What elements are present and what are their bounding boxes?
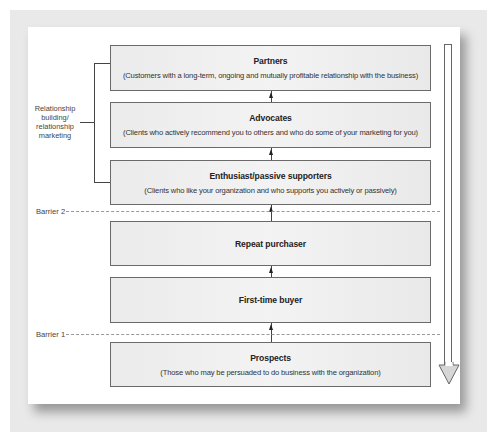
stage-title: Advocates (249, 113, 292, 123)
barrier-1-label: Barrier 1 (36, 330, 65, 339)
bracket-bottom-tick (94, 182, 110, 183)
stage-prospects: Prospects (Those who may be persuaded to… (110, 342, 431, 387)
stage-advocates: Advocates (Clients who actively recommen… (110, 102, 431, 148)
bracket-label-tick (80, 122, 94, 123)
up-arrow-icon (269, 149, 273, 155)
down-arrow-icon (438, 362, 460, 386)
stage-title: Prospects (250, 353, 291, 363)
up-arrow-icon (269, 92, 273, 98)
stage-description: (Clients who actively recommend you to o… (123, 128, 418, 137)
stage-enthusiast: Enthusiast/passive supporters (Clients w… (110, 160, 431, 205)
stage-repeat-purchaser: Repeat purchaser (110, 221, 431, 266)
stage-description: (Customers with a long-term, ongoing and… (123, 71, 418, 80)
stage-title: First-time buyer (239, 295, 302, 305)
stage-title: Partners (253, 56, 287, 66)
stage-title: Repeat purchaser (235, 239, 306, 249)
bracket-vertical (94, 63, 95, 183)
barrier-2-label: Barrier 2 (36, 207, 65, 216)
barrier-1-line (66, 334, 440, 335)
progression-arrow-shaft (444, 44, 452, 366)
stage-first-time-buyer: First-time buyer (110, 277, 431, 323)
bracket-label: Relationship building/ relationship mark… (33, 104, 77, 140)
bracket-top-tick (94, 63, 110, 64)
stage-title: Enthusiast/passive supporters (209, 171, 331, 181)
up-arrow-icon (269, 324, 273, 330)
stage-partners: Partners (Customers with a long-term, on… (110, 45, 431, 91)
stage-description: (Those who may be persuaded to do busine… (160, 368, 380, 377)
barrier-2-line (66, 211, 440, 212)
up-arrow-icon (269, 267, 273, 273)
stage-description: (Clients who like your organization and … (144, 186, 396, 195)
